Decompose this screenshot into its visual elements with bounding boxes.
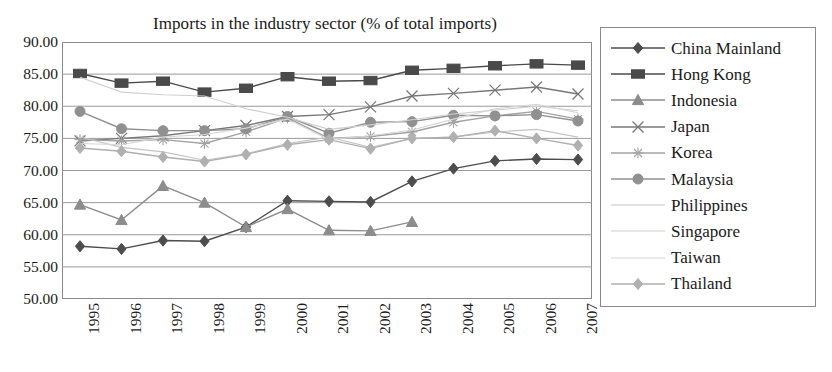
legend-marker-icon [609,194,667,216]
data-point-marker [117,124,127,134]
legend-item-hong-kong: Hong Kong [609,61,809,87]
legend-item-taiwan: Taiwan [609,245,809,271]
data-point-marker [407,176,416,187]
legend-item-philippines: Philippines [609,192,809,218]
y-axis-tick-label: 75.00 [4,131,58,147]
legend-label: China Mainland [667,40,781,57]
legend-label: Taiwan [667,249,721,266]
data-point-marker [489,62,502,70]
x-axis-tick-label: 1997 [169,303,185,334]
chart-screenshot: Imports in the industry sector (% of tot… [0,0,832,372]
x-axis-tick-label: 1998 [211,303,227,334]
data-point-marker [323,77,336,85]
legend-marker-icon [609,142,667,164]
data-point-marker [199,138,210,149]
x-axis-tick-label: 2003 [418,303,434,334]
x-axis-tick-label: 2005 [501,303,517,334]
chart-panel: Imports in the industry sector (% of tot… [0,0,600,372]
data-point-marker [633,42,642,53]
data-point-marker [633,174,643,184]
data-point-marker [240,84,253,92]
data-point-marker [447,64,460,72]
series-hong-kong [74,60,585,97]
data-point-marker [74,69,87,77]
legend-item-korea: Korea [609,140,809,166]
legend-label: Korea [667,144,713,161]
x-axis-tick-label: 2000 [294,303,310,334]
data-point-marker [282,203,293,213]
data-point-marker [572,61,585,69]
legend-label: Thailand [667,275,731,292]
legend-marker-icon [609,273,667,295]
data-point-marker [74,199,85,209]
data-point-marker [158,235,167,246]
data-point-marker [406,216,417,226]
data-point-marker [490,111,500,121]
legend-label: Singapore [667,223,740,240]
legend-label: Philippines [667,197,748,214]
data-point-marker [75,241,84,252]
data-point-marker [158,151,167,162]
data-point-marker [532,110,542,120]
x-axis-tick-label: 2004 [460,303,476,334]
data-point-marker [573,154,582,165]
y-axis-tick-label: 90.00 [4,34,58,50]
data-point-marker [532,153,541,164]
data-point-marker [406,66,419,74]
data-point-marker [633,278,642,289]
legend-marker-icon [609,89,667,111]
series-china-mainland [75,153,582,254]
legend-item-singapore: Singapore [609,218,809,244]
legend-label: Japan [667,118,710,135]
data-point-marker [158,126,168,136]
data-point-marker [200,236,209,247]
legend-item-china-mainland: China Mainland [609,35,809,61]
x-axis-tick-label: 2002 [377,303,393,334]
legend-marker-icon [609,37,667,59]
data-point-marker [241,149,250,160]
data-point-marker [115,79,128,87]
data-point-marker [157,180,168,190]
data-point-marker [490,125,499,136]
data-point-marker [632,70,645,78]
y-axis-tick-label: 55.00 [4,259,58,275]
data-point-marker [198,88,211,96]
legend-item-thailand: Thailand [609,271,809,297]
data-point-marker [365,101,376,112]
legend-label: Indonesia [667,92,737,109]
data-point-marker [157,77,170,85]
legend-item-malaysia: Malaysia [609,166,809,192]
plot-area [62,42,592,299]
legend-item-indonesia: Indonesia [609,87,809,113]
legend-marker-icon [609,220,667,242]
data-point-marker [530,60,543,68]
y-axis-tick-label: 60.00 [4,227,58,243]
data-point-marker [407,117,417,127]
data-point-marker [283,139,292,150]
series-indonesia [74,180,417,235]
data-point-marker [449,163,458,174]
y-axis-tick-label: 85.00 [4,66,58,82]
y-axis-tick-label: 80.00 [4,99,58,115]
legend-marker-icon [609,168,667,190]
x-axis-tick-label: 2001 [335,303,351,334]
x-axis-tick-label: 2007 [584,303,600,334]
legend-marker-icon [609,116,667,138]
legend-label: Hong Kong [667,66,751,83]
data-point-marker [366,196,375,207]
data-point-marker [532,133,541,144]
y-axis-tick-label: 65.00 [4,195,58,211]
data-point-marker [281,72,294,80]
data-point-marker [490,155,499,166]
legend-item-japan: Japan [609,114,809,140]
data-point-marker [573,116,583,126]
legend-marker-icon [609,63,667,85]
y-axis-tick-label: 50.00 [4,291,58,307]
y-axis-tick-label: 70.00 [4,163,58,179]
data-point-marker [449,131,458,142]
y-axis: 90.0085.0080.0075.0070.0065.0060.0055.00… [0,42,58,299]
x-axis-tick-label: 1996 [128,303,144,334]
x-axis-tick-label: 1999 [252,303,268,334]
legend-marker-icon [609,247,667,269]
data-point-marker [324,196,333,207]
